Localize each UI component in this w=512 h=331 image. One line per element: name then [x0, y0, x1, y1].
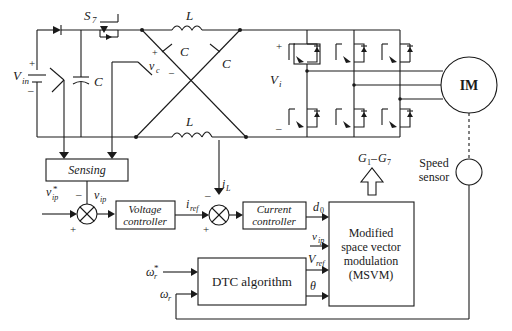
- gates-dash: –: [370, 151, 378, 165]
- vref-sub: ref: [316, 259, 326, 268]
- arrow-icon: [108, 210, 115, 218]
- vi-minus: –: [275, 122, 282, 134]
- vip-msvm-label: v: [312, 230, 317, 242]
- d0-sub: 0: [320, 206, 324, 215]
- arrow-icon: [59, 152, 69, 159]
- d0-label: d: [313, 200, 320, 214]
- arrow-icon: [191, 268, 198, 276]
- motor-label: IM: [460, 78, 479, 93]
- current-controller-label-1: Current: [257, 203, 292, 215]
- cap-cross-2-label: C: [222, 56, 231, 71]
- inductor-top-label: L: [185, 8, 193, 23]
- inductor-bottom-label: L: [185, 114, 193, 129]
- igbt-upper-1: [289, 44, 320, 64]
- arrow-icon: [202, 211, 209, 219]
- inductor-top: [172, 26, 202, 30]
- theta-label: θ: [310, 279, 316, 293]
- vc-plus: +: [152, 47, 158, 58]
- source-plus: +: [29, 57, 35, 69]
- iref-label: i: [186, 197, 189, 211]
- speed-sensor-label-1: Speed: [419, 156, 448, 170]
- igbt-lower-1: [289, 109, 320, 128]
- speed-sensor-label-2: sensor: [419, 170, 450, 184]
- vc-label: v: [149, 59, 155, 73]
- sum2-minus: –: [204, 189, 211, 201]
- gates-g7: G: [378, 151, 387, 165]
- sum2-plus: +: [203, 223, 209, 235]
- s7-label: S: [84, 8, 91, 23]
- control-section: Sensing v ip – + v * ip Voltage controll…: [42, 151, 414, 306]
- vc-sub: c: [156, 66, 160, 75]
- vin-sub: in: [22, 76, 30, 86]
- msvm-label-1: Modified: [349, 226, 394, 240]
- il-sub: L: [225, 184, 231, 193]
- arrow-icon: [236, 211, 243, 219]
- vi-sub: i: [279, 79, 282, 89]
- vip-ref-sub: ip: [52, 193, 58, 202]
- igbt-upper-2: [336, 44, 367, 63]
- cap-cross-1-plate: [162, 44, 172, 52]
- arrow-icon: [107, 152, 117, 159]
- sensing-label: Sensing: [68, 163, 105, 177]
- current-controller-label-2: controller: [252, 215, 296, 227]
- voltage-controller-label-2: controller: [123, 215, 167, 227]
- diagram-canvas: + – V in C S 7 L: [0, 0, 512, 331]
- vc-minus: –: [168, 67, 175, 78]
- gates-s7: 7: [387, 158, 391, 167]
- arrow-icon: [191, 290, 198, 298]
- diode-icon: [53, 26, 61, 34]
- msvm-label-2: space vector: [341, 240, 401, 254]
- il-label: i: [222, 177, 225, 191]
- msvm-label-3: modulation: [344, 254, 399, 268]
- cap-cross-1-label: C: [180, 44, 189, 59]
- igbt-lower-2: [336, 109, 367, 128]
- sum1-minus: –: [75, 188, 82, 200]
- wr-sub: r: [168, 294, 172, 303]
- arrow-icon: [70, 210, 77, 218]
- diode-icon: [106, 34, 112, 40]
- switch-lever-top: [50, 68, 64, 80]
- speed-sensor: [456, 159, 482, 185]
- gates-g1: G: [358, 151, 367, 165]
- arrow-icon: [322, 292, 329, 300]
- vip-msvm-sub: ip: [318, 236, 324, 245]
- cap-left-label: C: [94, 74, 103, 89]
- igbt-lower-3: [382, 109, 413, 128]
- iref-sub: ref: [190, 204, 200, 213]
- cap-cross-2-plate: [210, 44, 220, 52]
- vi-plus: +: [276, 40, 282, 52]
- igbt-upper-3: [382, 44, 413, 63]
- sum1-plus: +: [70, 223, 76, 235]
- current-sensor-loop: [202, 132, 212, 137]
- dtc-label: DTC algorithm: [212, 274, 292, 289]
- gate-signals-arrow-icon: [361, 168, 383, 195]
- msvm-label-4: (MSVM): [349, 268, 394, 282]
- s7-sub: 7: [92, 15, 97, 25]
- inductor-bottom: [172, 133, 202, 137]
- vip-sub: ip: [100, 195, 106, 204]
- wr-ref-sub: r: [154, 272, 158, 281]
- voltage-controller-label-1: Voltage: [129, 203, 162, 215]
